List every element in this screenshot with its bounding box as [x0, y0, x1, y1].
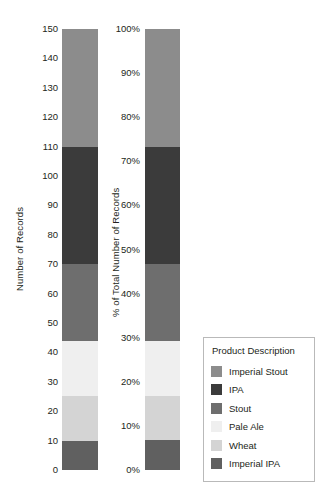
legend-color-swatch: [211, 458, 222, 469]
y-axis-tick-label: 0: [53, 465, 58, 475]
y-axis-ticks-records: 0102030405060708090100110120130140150: [16, 29, 58, 470]
legend-item[interactable]: Wheat: [211, 436, 307, 455]
y-axis-tick-label: 80: [47, 230, 58, 240]
legend-item[interactable]: Imperial Stout: [211, 362, 307, 381]
y-axis-tick-label: 20: [47, 406, 58, 416]
legend-color-swatch: [211, 366, 222, 377]
bar-segment: [145, 440, 180, 470]
y-axis-tick-label: 20%: [121, 377, 140, 387]
legend-item-label: IPA: [229, 384, 244, 395]
legend-item-label: Wheat: [229, 440, 256, 451]
bar-segment: [62, 147, 98, 265]
y-axis-tick-label: 120: [42, 112, 58, 122]
panel-percent-of-total: % of Total Number of Records 0%10%20%30%…: [100, 0, 195, 499]
y-axis-tick-label: 90%: [121, 68, 140, 78]
y-axis-tick-label: 70%: [121, 157, 140, 167]
y-axis-tick-label: 130: [42, 83, 58, 93]
bar-segment: [62, 341, 98, 397]
y-axis-tick-label: 50: [47, 318, 58, 328]
bar-segment: [145, 147, 180, 264]
y-axis-tick-label: 80%: [121, 112, 140, 122]
y-axis-tick-label: 10%: [121, 421, 140, 431]
bar-segment: [62, 441, 98, 470]
y-axis-tick-label: 60%: [121, 201, 140, 211]
legend-color-swatch: [211, 421, 222, 432]
legend-item[interactable]: IPA: [211, 381, 307, 400]
bar-segment: [145, 264, 180, 341]
legend-item-label: Imperial IPA: [229, 458, 280, 469]
bar-segment: [62, 396, 98, 440]
plot-area-records: [62, 29, 98, 470]
bar-segment: [62, 29, 98, 147]
legend: Product Description Imperial StoutIPASto…: [203, 337, 315, 482]
legend-items: Imperial StoutIPAStoutPale AleWheatImper…: [211, 362, 307, 473]
legend-item[interactable]: Pale Ale: [211, 418, 307, 437]
y-axis-tick-label: 60: [47, 289, 58, 299]
legend-item-label: Imperial Stout: [229, 366, 288, 377]
y-axis-tick-label: 70: [47, 259, 58, 269]
legend-title: Product Description: [212, 345, 307, 356]
plot-area-percent: [145, 29, 180, 470]
legend-item-label: Stout: [229, 403, 251, 414]
stacked-bar-percent: [145, 29, 180, 470]
bar-segment: [62, 264, 98, 340]
legend-color-swatch: [211, 384, 222, 395]
y-axis-tick-label: 100: [42, 171, 58, 181]
legend-item-label: Pale Ale: [229, 421, 264, 432]
y-axis-tick-label: 110: [43, 142, 58, 152]
y-axis-ticks-percent: 0%10%20%30%40%50%60%70%80%90%100%: [98, 29, 140, 470]
panel-number-of-records: Number of Records 0102030405060708090100…: [0, 0, 105, 499]
y-axis-tick-label: 10: [47, 436, 58, 446]
legend-item[interactable]: Stout: [211, 399, 307, 418]
y-axis-tick-label: 30%: [121, 333, 140, 343]
stacked-bar-chart: Number of Records 0102030405060708090100…: [0, 0, 322, 499]
bar-segment: [145, 396, 180, 440]
y-axis-tick-label: 100%: [116, 24, 140, 34]
y-axis-tick-label: 40: [47, 348, 58, 358]
y-axis-tick-label: 30: [47, 377, 58, 387]
y-axis-tick-label: 40%: [121, 289, 140, 299]
y-axis-tick-label: 140: [42, 54, 58, 64]
legend-color-swatch: [211, 403, 222, 414]
y-axis-tick-label: 0%: [126, 465, 140, 475]
bar-segment: [145, 341, 180, 397]
y-axis-tick-label: 50%: [121, 245, 140, 255]
stacked-bar-records: [62, 29, 98, 470]
legend-color-swatch: [211, 440, 222, 451]
legend-item[interactable]: Imperial IPA: [211, 455, 307, 474]
y-axis-tick-label: 90: [47, 201, 58, 211]
y-axis-tick-label: 150: [42, 24, 58, 34]
bar-segment: [145, 29, 180, 147]
